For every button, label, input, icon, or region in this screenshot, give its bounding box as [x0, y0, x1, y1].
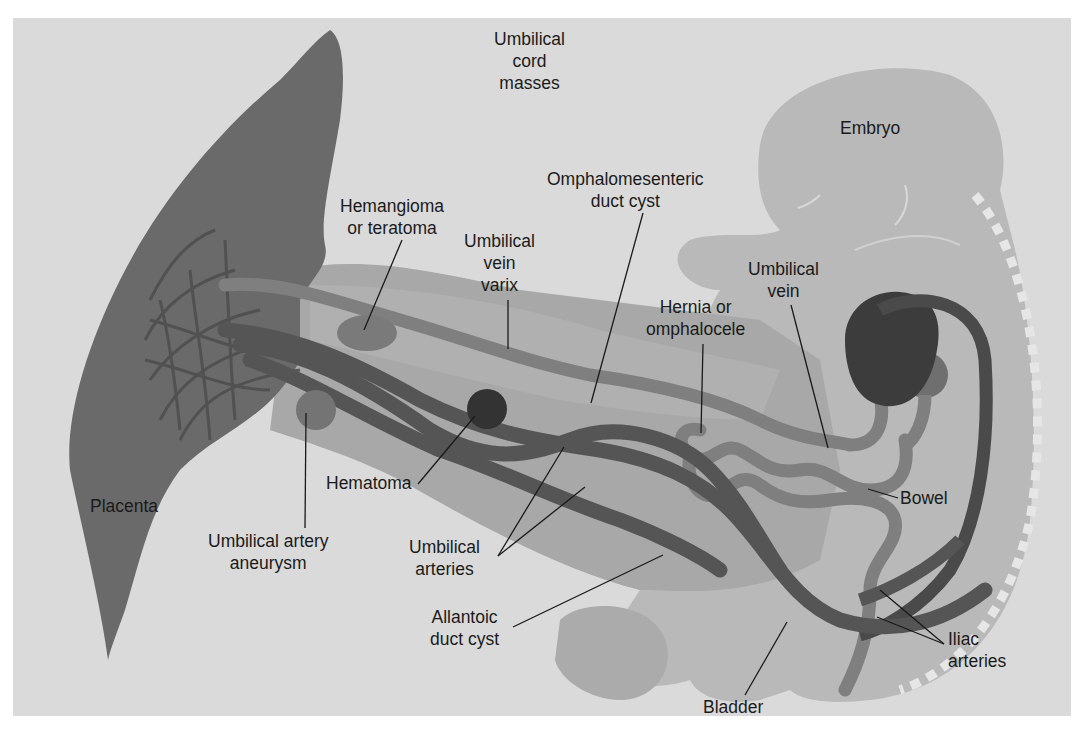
label-bowel: Bowel — [900, 487, 948, 509]
label-omphalomesenteric-duct-cyst: Omphalomesenteric duct cyst — [547, 168, 704, 212]
label-umbilical-vein-varix: Umbilical vein varix — [464, 230, 535, 296]
label-line: Bowel — [900, 487, 948, 509]
label-line: Hematoma — [326, 472, 412, 494]
label-umbilical-arteries: Umbilical arteries — [409, 536, 480, 580]
label-line: vein — [748, 280, 819, 302]
label-line: Umbilical — [748, 258, 819, 280]
label-umbilical-artery-aneurysm: Umbilical artery aneurysm — [208, 530, 329, 574]
label-line: Umbilical artery — [208, 530, 329, 552]
label-line: vein — [464, 252, 535, 274]
label-hemangioma-or-teratoma: Hemangioma or teratoma — [340, 195, 444, 239]
label-bladder: Bladder — [703, 696, 763, 718]
label-line: arteries — [409, 558, 480, 580]
label-line: Iliac — [948, 628, 1006, 650]
label-line: Placenta — [90, 495, 158, 517]
label-umbilical-vein: Umbilical vein — [748, 258, 819, 302]
label-line: cord — [494, 50, 565, 72]
label-hematoma: Hematoma — [326, 472, 412, 494]
label-line: varix — [464, 274, 535, 296]
label-line: duct cyst — [430, 628, 499, 650]
label-line: omphalocele — [646, 318, 745, 340]
label-line: arteries — [948, 650, 1006, 672]
label-placenta: Placenta — [90, 495, 158, 517]
label-iliac-arteries: Iliac arteries — [948, 628, 1006, 672]
label-line: Umbilical — [494, 28, 565, 50]
label-line: Hemangioma — [340, 195, 444, 217]
hematoma-mass — [467, 389, 507, 429]
hemangioma-mass — [337, 315, 397, 351]
label-line: or teratoma — [340, 217, 444, 239]
aneurysm-mass — [296, 390, 336, 430]
umbilical-cord-diagram — [0, 0, 1082, 732]
label-line: duct cyst — [547, 190, 704, 212]
label-line: Hernia or — [646, 296, 745, 318]
label-embryo: Embryo — [840, 117, 900, 139]
label-hernia-or-omphalocele: Hernia or omphalocele — [646, 296, 745, 340]
label-line: Umbilical — [409, 536, 480, 558]
label-allantoic-duct-cyst: Allantoic duct cyst — [430, 606, 499, 650]
label-umbilical-cord-masses: Umbilical cord masses — [494, 28, 565, 94]
label-line: Allantoic — [430, 606, 499, 628]
label-line: Omphalomesenteric — [547, 168, 704, 190]
label-line: aneurysm — [208, 552, 329, 574]
label-line: masses — [494, 72, 565, 94]
label-line: Bladder — [703, 696, 763, 718]
label-line: Embryo — [840, 117, 900, 139]
label-line: Umbilical — [464, 230, 535, 252]
